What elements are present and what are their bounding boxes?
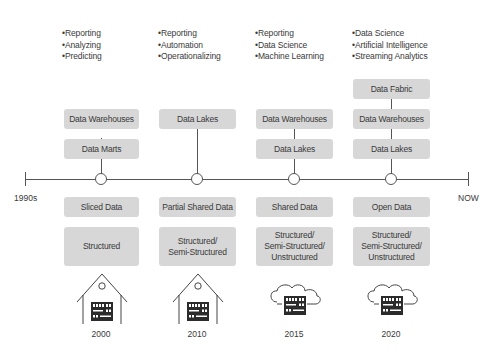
era-year: 2015 [274, 329, 314, 339]
timeline-end-label: NOW [458, 193, 479, 203]
data-types-box: Structured/ Semi-Structured/ Unstructure… [353, 227, 430, 266]
use-item: Operationalizing [158, 51, 221, 63]
sharing-box: Open Data [353, 197, 430, 217]
use-item: Reporting [158, 28, 221, 40]
era-year: 2000 [81, 329, 121, 339]
architecture-box: Data Lakes [159, 109, 236, 129]
house-server-icon [75, 272, 129, 318]
era-2010-node [191, 173, 203, 185]
use-item: Data Science [352, 28, 428, 40]
era-2010-connector [197, 128, 198, 174]
use-item: Reporting [62, 28, 102, 40]
architecture-box: Data Warehouses [353, 109, 430, 129]
data-types-box: Structured [64, 227, 139, 266]
architecture-box: Data Marts [64, 139, 139, 159]
era-year: 2020 [371, 329, 411, 339]
era-2015-uses: Reporting Data Science Machine Learning [255, 28, 324, 63]
use-item: Predicting [62, 51, 102, 63]
era-2000-node [95, 173, 107, 185]
use-item: Streaming Analytics [352, 51, 428, 63]
sharing-box: Shared Data [256, 197, 333, 217]
cloud-server-icon [267, 282, 323, 322]
architecture-box: Data Warehouses [64, 109, 139, 129]
use-item: Analyzing [62, 40, 102, 52]
era-2010-uses: Reporting Automation Operationalizing [158, 28, 221, 63]
sharing-box: Partial Shared Data [159, 197, 236, 217]
era-2020-uses: Data Science Artificial Intelligence Str… [352, 28, 428, 63]
use-item: Automation [158, 40, 221, 52]
architecture-box: Data Lakes [256, 139, 333, 159]
data-types-box: Structured/ Semi-Structured [159, 227, 236, 266]
sharing-box: Sliced Data [64, 197, 139, 217]
era-2015-node [288, 173, 300, 185]
use-item: Data Science [255, 40, 324, 52]
era-year: 2010 [177, 329, 217, 339]
house-server-icon [171, 272, 225, 318]
use-item: Reporting [255, 28, 324, 40]
architecture-box: Data Lakes [353, 139, 430, 159]
architecture-box: Data Fabric [353, 79, 430, 99]
cloud-server-icon [364, 282, 420, 322]
use-item: Artificial Intelligence [352, 40, 428, 52]
era-2020-connector [391, 96, 392, 174]
data-types-box: Structured/ Semi-Structured/ Unstructure… [256, 227, 333, 266]
era-2020-node [385, 173, 397, 185]
use-item: Machine Learning [255, 51, 324, 63]
timeline-end-tick [468, 172, 469, 186]
timeline-axis [25, 179, 469, 180]
architecture-box: Data Warehouses [256, 109, 333, 129]
era-2000-uses: Reporting Analyzing Predicting [62, 28, 102, 63]
timeline-start-label: 1990s [14, 193, 37, 203]
